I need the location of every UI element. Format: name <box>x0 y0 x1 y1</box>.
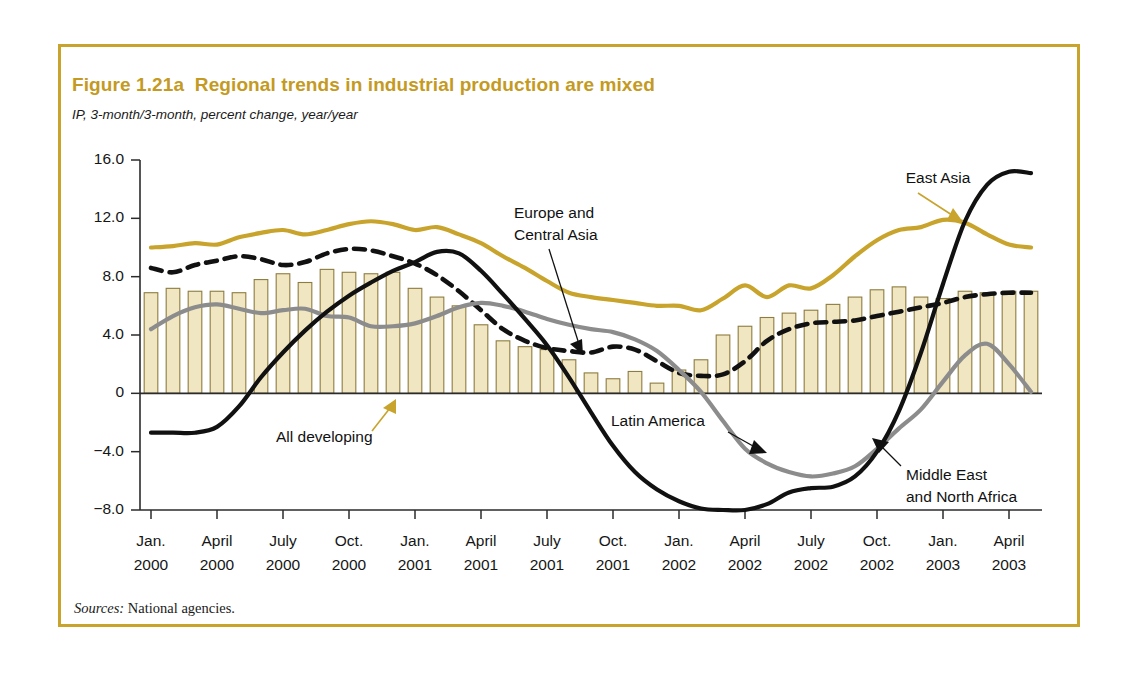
bar-all-developing <box>276 274 290 394</box>
svg-text:2000: 2000 <box>332 556 367 573</box>
svg-text:2003: 2003 <box>992 556 1026 573</box>
bar-all-developing <box>1024 291 1038 393</box>
svg-text:Oct.: Oct. <box>599 532 627 549</box>
x-axis-tick-label: Jan.2001 <box>398 532 432 573</box>
bar-all-developing <box>166 288 180 393</box>
svg-text:2000: 2000 <box>200 556 235 573</box>
svg-text:2002: 2002 <box>794 556 828 573</box>
svg-text:April: April <box>201 532 232 549</box>
bars-all-developing <box>144 269 1038 393</box>
bar-all-developing <box>782 313 796 393</box>
svg-text:Oct.: Oct. <box>335 532 363 549</box>
bar-all-developing <box>650 383 664 393</box>
bar-all-developing <box>408 288 422 393</box>
bar-all-developing <box>958 291 972 393</box>
x-axis-tick-label: Jan.2000 <box>134 532 169 573</box>
annotation-all-developing-label: All developing <box>276 428 373 445</box>
svg-text:2001: 2001 <box>530 556 564 573</box>
bar-all-developing <box>474 325 488 394</box>
bar-all-developing <box>518 347 532 394</box>
x-axis-tick-label: Jan.2002 <box>662 532 696 573</box>
x-axis-tick-label: July2001 <box>530 532 564 573</box>
svg-text:Oct.: Oct. <box>863 532 891 549</box>
svg-text:July: July <box>533 532 561 549</box>
arrowhead-all-developing <box>383 399 396 414</box>
bar-all-developing <box>540 350 554 394</box>
bar-all-developing <box>628 371 642 393</box>
annotation-east-asia-label: East Asia <box>906 169 971 186</box>
svg-text:2000: 2000 <box>266 556 301 573</box>
bar-all-developing <box>1002 291 1016 393</box>
svg-text:2002: 2002 <box>662 556 696 573</box>
x-axis-tick-label: April2002 <box>728 532 762 573</box>
annotation-europe-central-asia-line1: Europe and <box>514 204 594 221</box>
svg-text:2001: 2001 <box>464 556 498 573</box>
y-axis-tick-label: 0 <box>115 383 124 400</box>
x-axis-tick-label: Jan.2003 <box>926 532 960 573</box>
x-axis-tick-label: July2002 <box>794 532 828 573</box>
annotation-mena-line1: Middle East <box>906 466 988 483</box>
bar-all-developing <box>386 272 400 393</box>
svg-text:2003: 2003 <box>926 556 960 573</box>
x-axis-tick-label: July2000 <box>266 532 301 573</box>
svg-text:April: April <box>465 532 496 549</box>
x-axis-tick-label: April2003 <box>992 532 1026 573</box>
bar-all-developing <box>320 269 334 393</box>
svg-text:July: July <box>269 532 297 549</box>
annotation-mena-line2: and North Africa <box>906 488 1018 505</box>
svg-text:2002: 2002 <box>860 556 894 573</box>
x-axis-tick-labels: Jan.2000April2000July2000Oct.2000Jan.200… <box>134 532 1026 573</box>
svg-text:April: April <box>993 532 1024 549</box>
svg-text:2002: 2002 <box>728 556 762 573</box>
svg-text:2001: 2001 <box>398 556 432 573</box>
svg-text:April: April <box>729 532 760 549</box>
annotation-europe-central-asia: Europe and Central Asia <box>514 204 598 355</box>
y-axis-tick-label: 16.0 <box>94 150 125 167</box>
svg-text:2001: 2001 <box>596 556 630 573</box>
x-axis-tick-label: April2000 <box>200 532 235 573</box>
svg-text:Jan.: Jan. <box>928 532 957 549</box>
y-axis-tick-label: −4.0 <box>93 442 124 459</box>
x-axis-tick-label: Oct.2001 <box>596 532 630 573</box>
y-axis-tick-labels: 16.012.08.04.00−4.0−8.0 <box>93 150 124 517</box>
bar-all-developing <box>826 304 840 393</box>
bar-all-developing <box>430 297 444 393</box>
annotation-mena: Middle East and North Africa <box>872 438 1018 505</box>
bar-all-developing <box>716 335 730 393</box>
svg-text:2000: 2000 <box>134 556 169 573</box>
annotation-east-asia: East Asia <box>906 169 971 222</box>
bar-all-developing <box>738 326 752 393</box>
bar-all-developing <box>144 293 158 394</box>
y-axis-tick-label: 8.0 <box>102 267 124 284</box>
svg-text:July: July <box>797 532 825 549</box>
annotation-europe-central-asia-line2: Central Asia <box>514 226 598 243</box>
x-axis-tick-label: Oct.2000 <box>332 532 367 573</box>
bar-all-developing <box>914 297 928 393</box>
chart-plot: 16.012.08.04.00−4.0−8.0 Jan.2000April200… <box>0 0 1138 691</box>
arrowhead-east-asia <box>947 208 963 222</box>
bar-all-developing <box>496 341 510 394</box>
svg-text:Jan.: Jan. <box>136 532 165 549</box>
bar-all-developing <box>848 297 862 393</box>
y-axis-tick-label: 4.0 <box>102 325 124 342</box>
x-axis-tick-label: Oct.2002 <box>860 532 894 573</box>
annotation-all-developing: All developing <box>276 399 396 445</box>
bar-all-developing <box>870 290 884 394</box>
bar-all-developing <box>606 379 620 394</box>
bar-all-developing <box>584 373 598 393</box>
arrowhead-latin-america <box>749 440 767 454</box>
y-axis-tick-label: −8.0 <box>93 500 124 517</box>
bar-all-developing <box>892 287 906 393</box>
x-axis-tick-label: April2001 <box>464 532 498 573</box>
bar-all-developing <box>364 274 378 394</box>
svg-text:Jan.: Jan. <box>400 532 429 549</box>
annotation-latin-america-label: Latin America <box>611 412 705 429</box>
figure-page: Figure 1.21a Regional trends in industri… <box>0 0 1138 691</box>
y-axis-tick-label: 12.0 <box>94 208 125 225</box>
bar-all-developing <box>452 306 466 394</box>
bar-all-developing <box>760 318 774 394</box>
svg-text:Jan.: Jan. <box>664 532 693 549</box>
